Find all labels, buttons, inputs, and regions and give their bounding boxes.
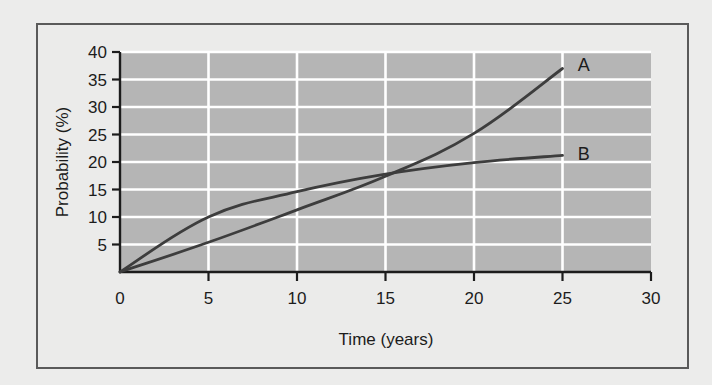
y-tick-label: 40 <box>88 43 107 62</box>
y-axis-tick-labels: 510152025303540 <box>88 43 107 255</box>
x-axis-ticks <box>209 272 652 281</box>
x-tick-label: 15 <box>376 289 395 308</box>
x-tick-label: 25 <box>553 289 572 308</box>
y-tick-label: 25 <box>88 126 107 145</box>
line-chart: 510152025303540 051015202530 AB Time (ye… <box>0 0 712 385</box>
x-tick-label: 5 <box>204 289 213 308</box>
chart-figure: 510152025303540 051015202530 AB Time (ye… <box>0 0 712 385</box>
y-tick-label: 30 <box>88 98 107 117</box>
x-tick-label: 0 <box>115 289 124 308</box>
y-tick-label: 10 <box>88 208 107 227</box>
series-label-a: A <box>578 55 590 75</box>
y-tick-label: 15 <box>88 181 107 200</box>
x-axis-title: Time (years) <box>339 330 434 349</box>
y-axis-title: Probability (%) <box>53 107 72 218</box>
x-axis-tick-labels: 051015202530 <box>115 289 660 308</box>
series-label-b: B <box>578 144 590 164</box>
y-tick-label: 5 <box>98 236 107 255</box>
x-tick-label: 30 <box>642 289 661 308</box>
x-tick-label: 20 <box>465 289 484 308</box>
y-tick-label: 20 <box>88 153 107 172</box>
y-tick-label: 35 <box>88 71 107 90</box>
x-tick-label: 10 <box>288 289 307 308</box>
